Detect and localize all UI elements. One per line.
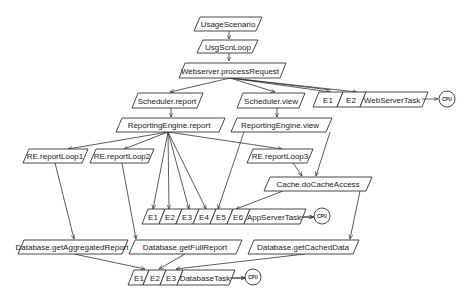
svg-text:Scheduler.view: Scheduler.view [244,97,298,106]
node-reporting-engine-report[interactable]: ReportingEngine.report [116,118,225,132]
database-cpu[interactable]: CPU [245,269,261,285]
webserver-task[interactable]: E1 E2 WebServerTask [313,92,428,107]
node-database-get-full-report[interactable]: Database.getFullReport [129,240,242,254]
svg-text:AppServerTask: AppServerTask [247,213,302,222]
svg-text:E2: E2 [150,274,160,283]
svg-text:E1: E1 [148,213,158,222]
svg-text:Database.getCachedData: Database.getCachedData [257,243,350,252]
svg-text:RE.reportLoop1: RE.reportLoop1 [27,152,84,161]
svg-text:E2: E2 [165,213,175,222]
node-usg-scn-loop[interactable]: UsgScnLoop [197,40,258,53]
svg-text:UsgScnLoop: UsgScnLoop [205,43,251,52]
node-re-report-loop2[interactable]: RE.reportLoop2 [90,149,154,163]
svg-text:CPU: CPU [248,275,258,280]
svg-text:E1: E1 [323,96,333,105]
svg-text:UsageScenario: UsageScenario [201,20,256,29]
node-re-report-loop1[interactable]: RE.reportLoop1 [23,149,88,163]
svg-text:Scheduler.report: Scheduler.report [138,97,197,106]
node-scheduler-report[interactable]: Scheduler.report [132,93,203,108]
node-cache-do-cache-access[interactable]: Cache.doCacheAccess [264,177,372,191]
svg-text:ReportingEngine.report: ReportingEngine.report [128,121,211,130]
node-re-report-loop3[interactable]: RE.reportLoop3 [247,149,313,163]
svg-text:Database.getFullReport: Database.getFullReport [143,243,228,252]
svg-text:E1: E1 [134,274,144,283]
node-scheduler-view[interactable]: Scheduler.view [237,93,305,108]
svg-text:E2: E2 [346,96,356,105]
svg-text:CPU: CPU [317,214,327,219]
svg-text:DatabaseTask: DatabaseTask [180,274,232,283]
svg-text:ReportingEngine.view: ReportingEngine.view [241,121,319,130]
svg-text:RE.reportLoop3: RE.reportLoop3 [252,152,309,161]
svg-text:E4: E4 [199,213,209,222]
appserver-task[interactable]: E1 E2 E3 E4 E5 E6 AppServerTask [142,209,306,224]
svg-text:Database.getAggregatedReport: Database.getAggregatedReport [16,243,130,252]
database-task[interactable]: E1 E2 E3 DatabaseTask [128,270,235,285]
node-database-get-aggregated-report[interactable]: Database.getAggregatedReport [16,240,130,254]
node-usage-scenario[interactable]: UsageScenario [194,17,262,31]
node-reporting-engine-view[interactable]: ReportingEngine.view [231,118,332,132]
node-database-get-cached-data[interactable]: Database.getCachedData [248,240,359,254]
node-webserver-process-request[interactable]: Webserver.processRequest [179,63,286,78]
svg-text:E3: E3 [182,213,192,222]
appserver-cpu[interactable]: CPU [314,208,330,224]
svg-text:Cache.doCacheAccess: Cache.doCacheAccess [276,180,359,189]
diagram-canvas: UsageScenario UsgScnLoop Webserver.proce… [0,0,475,304]
svg-text:Webserver.processRequest: Webserver.processRequest [181,67,280,76]
webserver-cpu[interactable]: CPU [439,91,455,107]
svg-text:CPU: CPU [442,97,452,102]
svg-text:RE.reportLoop2: RE.reportLoop2 [94,152,151,161]
svg-text:WebServerTask: WebServerTask [364,96,421,105]
svg-text:E5: E5 [216,213,226,222]
svg-text:E3: E3 [166,274,176,283]
svg-text:E6: E6 [233,213,243,222]
